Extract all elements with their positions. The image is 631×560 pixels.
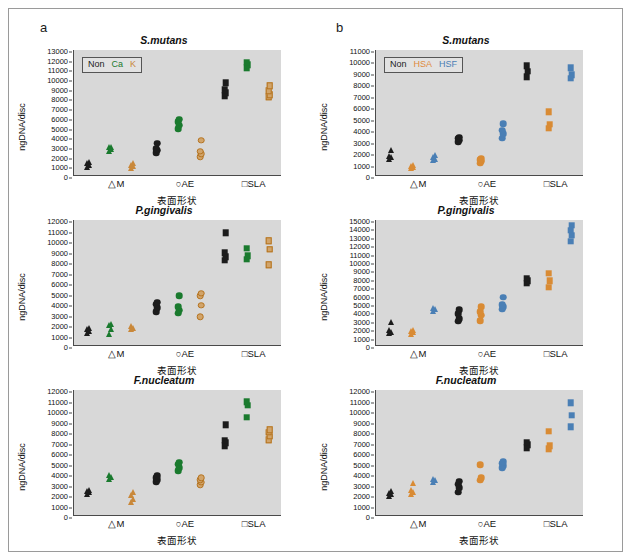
y-tick-label: 9000 bbox=[353, 269, 370, 277]
y-tick-mark bbox=[371, 143, 374, 144]
x-tick-label: □SLA bbox=[242, 348, 266, 359]
data-point bbox=[500, 459, 507, 466]
y-tick-mark bbox=[371, 497, 374, 498]
y-axis: 0100020003000400050006000700080009000100… bbox=[28, 390, 72, 516]
x-tick-label: △M bbox=[108, 348, 124, 359]
y-tick-label: 12000 bbox=[47, 388, 68, 396]
y-tick-mark bbox=[69, 327, 72, 328]
chart-f-nucleatum: F.nucleatumngDNA/disc0100020003000400050… bbox=[14, 374, 314, 554]
data-point bbox=[456, 306, 463, 313]
x-axis: △M○AE□SLA bbox=[375, 348, 583, 362]
y-axis: 0100020003000400050006000700080009000100… bbox=[28, 220, 72, 346]
data-point bbox=[86, 487, 92, 493]
y-tick-mark bbox=[69, 476, 72, 477]
y-tick-mark bbox=[69, 348, 72, 349]
y-tick-mark bbox=[371, 222, 374, 223]
figure-container: aS.mutansngDNA/disc010002000300040005000… bbox=[0, 0, 631, 560]
data-point bbox=[569, 412, 576, 419]
y-tick-label: 10000 bbox=[349, 260, 370, 268]
data-point bbox=[221, 87, 228, 94]
data-point bbox=[456, 478, 463, 485]
plot-wrapper: ngDNA/disc010002000300040005000600070008… bbox=[316, 218, 616, 384]
data-point bbox=[386, 327, 392, 333]
data-point bbox=[567, 238, 574, 245]
data-point bbox=[243, 245, 250, 252]
data-point bbox=[221, 250, 228, 257]
y-tick-label: 6000 bbox=[353, 451, 370, 459]
y-tick-mark bbox=[69, 444, 72, 445]
y-tick-label: 7000 bbox=[51, 271, 68, 279]
y-tick-label: 2000 bbox=[353, 151, 370, 159]
y-tick-mark bbox=[69, 81, 72, 82]
y-tick-mark bbox=[69, 295, 72, 296]
x-tick-label: △M bbox=[108, 178, 124, 189]
y-tick-mark bbox=[69, 316, 72, 317]
y-tick-mark bbox=[69, 274, 72, 275]
data-point bbox=[567, 399, 574, 406]
x-tick-label: ○AE bbox=[176, 518, 194, 529]
x-axis-label: 表面形状 bbox=[73, 533, 281, 547]
y-tick-label: 8000 bbox=[353, 277, 370, 285]
y-tick-mark bbox=[69, 222, 72, 223]
y-tick-label: 8000 bbox=[353, 430, 370, 438]
data-point bbox=[130, 489, 136, 495]
y-tick-label: 4000 bbox=[51, 135, 68, 143]
y-tick-mark bbox=[69, 110, 72, 111]
y-tick-label: 9000 bbox=[51, 87, 68, 95]
chart-s-mutans: S.mutansngDNA/disc0100020003000400050006… bbox=[14, 34, 314, 214]
data-point bbox=[223, 422, 230, 429]
y-tick-label: 3000 bbox=[353, 483, 370, 491]
data-point bbox=[432, 152, 438, 158]
x-axis: △M○AE□SLA bbox=[375, 518, 583, 532]
data-point bbox=[154, 140, 161, 147]
y-tick-label: 11000 bbox=[350, 399, 370, 407]
data-point bbox=[499, 301, 506, 308]
y-tick-label: 10000 bbox=[47, 409, 68, 417]
chart-title: F.nucleatum bbox=[14, 374, 314, 386]
y-tick-label: 1000 bbox=[353, 163, 370, 171]
data-point bbox=[388, 488, 394, 494]
y-tick-label: 4000 bbox=[353, 311, 370, 319]
y-tick-label: 11000 bbox=[350, 48, 370, 56]
plot-wrapper: ngDNA/disc010002000300040005000600070008… bbox=[14, 388, 314, 554]
x-tick-label: ○AE bbox=[176, 348, 194, 359]
y-tick-mark bbox=[69, 507, 72, 508]
y-tick-mark bbox=[69, 253, 72, 254]
y-tick-label: 9000 bbox=[353, 420, 370, 428]
y-tick-label: 15000 bbox=[349, 218, 370, 226]
y-tick-mark bbox=[371, 322, 374, 323]
plot-wrapper: ngDNA/disc010002000300040005000600070008… bbox=[316, 388, 616, 554]
y-axis: 0100020003000400050006000700080009000100… bbox=[330, 390, 374, 516]
y-tick-label: 8000 bbox=[51, 260, 68, 268]
data-point bbox=[130, 160, 136, 166]
y-tick-label: 2000 bbox=[51, 493, 68, 501]
y-tick-mark bbox=[69, 178, 72, 179]
y-tick-label: 5000 bbox=[51, 292, 68, 300]
data-point bbox=[500, 294, 507, 301]
y-tick-label: 7000 bbox=[51, 106, 68, 114]
data-point bbox=[128, 323, 134, 329]
chart-title: P.gingivalis bbox=[14, 204, 314, 216]
data-point bbox=[569, 72, 576, 79]
data-point bbox=[567, 423, 574, 430]
data-point bbox=[478, 155, 485, 162]
data-point bbox=[388, 319, 394, 325]
y-tick-label: 10000 bbox=[349, 60, 370, 68]
y-tick-mark bbox=[69, 129, 72, 130]
y-tick-label: 0 bbox=[366, 514, 370, 522]
legend: NonHSAHSF bbox=[384, 57, 463, 73]
y-tick-mark bbox=[371, 507, 374, 508]
y-axis-label: ngDNA/disc bbox=[318, 238, 330, 356]
data-point bbox=[386, 153, 392, 159]
y-tick-mark bbox=[371, 280, 374, 281]
data-point bbox=[545, 428, 552, 435]
data-point bbox=[545, 270, 552, 277]
data-point bbox=[154, 299, 161, 306]
y-tick-mark bbox=[371, 97, 374, 98]
y-tick-mark bbox=[69, 243, 72, 244]
data-point bbox=[108, 144, 114, 150]
y-tick-mark bbox=[69, 497, 72, 498]
y-tick-label: 7000 bbox=[353, 94, 370, 102]
y-tick-label: 4000 bbox=[51, 302, 68, 310]
y-tick-mark bbox=[371, 465, 374, 466]
